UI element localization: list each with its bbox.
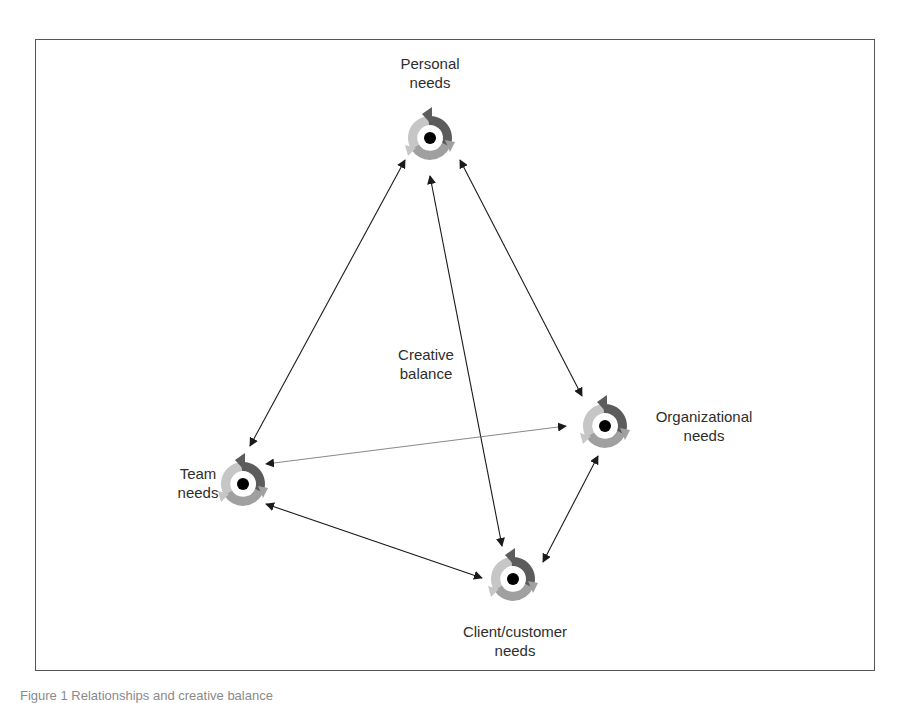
label-line: balance (384, 364, 468, 383)
label-line: needs (644, 426, 764, 445)
node-client-cycle-icon (488, 548, 538, 601)
figure-caption: Figure 1 Relationships and creative bala… (20, 688, 273, 703)
creative-balance-label: Creative balance (384, 345, 468, 383)
node-organizational-cycle-icon (580, 395, 630, 448)
personal-needs-label: Personal needs (388, 54, 472, 92)
label-line: needs (172, 483, 224, 502)
node-team-cycle-icon (218, 453, 268, 506)
label-line: Personal (388, 54, 472, 73)
organizational-needs-label: Organizational needs (644, 407, 764, 445)
label-line: Client/customer (453, 622, 577, 641)
label-line: needs (453, 641, 577, 660)
edge-team-client (266, 504, 482, 578)
edge-personal-team (250, 160, 405, 446)
node-personal-cycle-icon (405, 107, 455, 160)
client-customer-needs-label: Client/customer needs (453, 622, 577, 660)
label-line: Team (172, 464, 224, 483)
edge-team-organizational (266, 426, 566, 464)
label-line: Organizational (644, 407, 764, 426)
label-line: Creative (384, 345, 468, 364)
edge-organizational-client (543, 456, 598, 562)
edge-personal-organizational (460, 160, 582, 396)
label-line: needs (388, 73, 472, 92)
team-needs-label: Team needs (172, 464, 224, 502)
